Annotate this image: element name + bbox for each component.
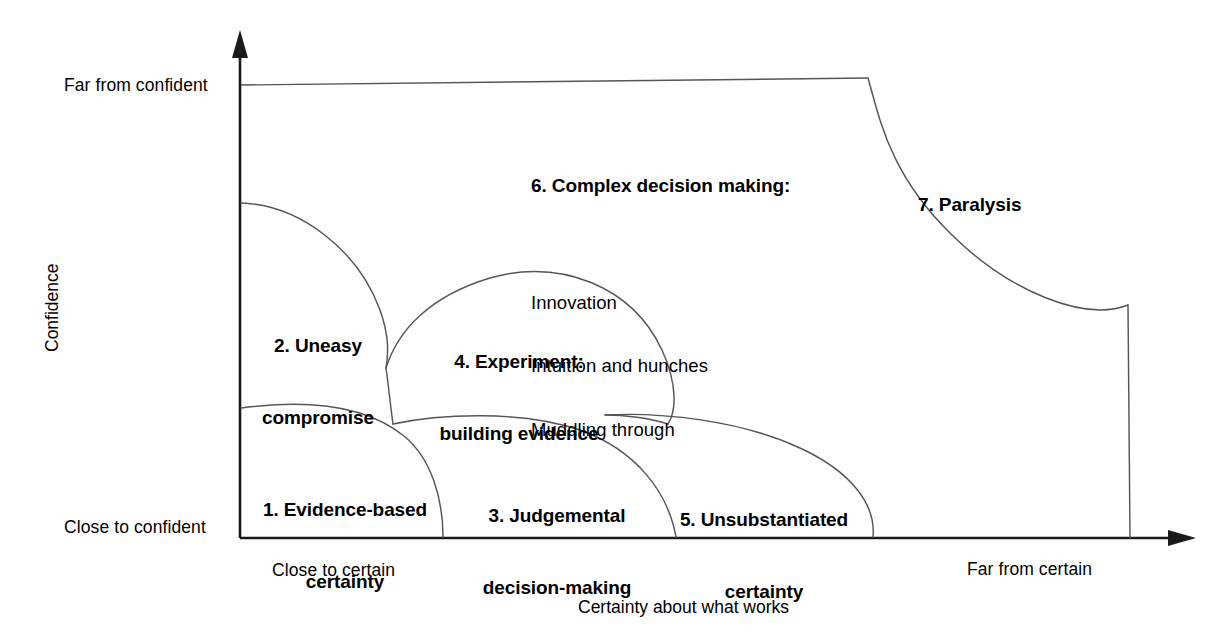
region-6-item-2: Intuition and hunches [531,354,790,377]
region-6-label: 6. Complex decision making: Innovation I… [531,134,790,482]
y-axis-bottom-label: Close to confident [64,516,206,538]
region-2-line2: compromise [248,406,388,430]
region-3-line2: decision-making [466,576,648,600]
confidence-certainty-diagram: Confidence Far from confident Close to c… [0,0,1220,644]
region-2-label: 2. Uneasy compromise [248,286,388,478]
region-5-line1: 5. Unsubstantiated [660,508,868,532]
region-6-item-1: Innovation [531,291,790,314]
region-2-line1: 2. Uneasy [248,334,388,358]
region-1-line1: 1. Evidence-based [250,498,440,522]
region-6-item-3: Muddling through [531,418,790,441]
region-3-line1: 3. Judgemental [466,504,648,528]
region-1-line2: certainty [250,570,440,594]
y-axis-top-label: Far from confident [64,74,208,96]
y-axis-title: Confidence [42,263,63,352]
y-axis-arrowhead [232,30,248,58]
region-7-label: 7. Paralysis [918,193,1021,217]
region-7-right-edge [1128,305,1130,538]
x-axis-right-label: Far from certain [967,558,1092,580]
region-5-label: 5. Unsubstantiated certainty [660,460,868,644]
region-1-label: 1. Evidence-based certainty [250,450,440,642]
region-5-line2: certainty [660,580,868,604]
region-6-spacer [531,239,790,251]
x-axis-arrowhead [1168,530,1196,546]
region-6-heading: 6. Complex decision making: [531,174,790,198]
top-boundary-line [241,78,868,85]
